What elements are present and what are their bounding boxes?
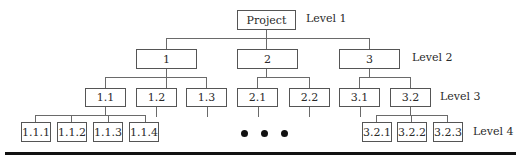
node-label: 1.1.2 bbox=[58, 126, 86, 139]
connector bbox=[309, 77, 310, 88]
node-label: 1.1.4 bbox=[130, 126, 158, 139]
bottom-rule bbox=[5, 152, 516, 155]
connector bbox=[108, 115, 109, 122]
connector bbox=[105, 77, 207, 78]
node-1-1: 1.1 bbox=[85, 88, 126, 107]
node-3: 3 bbox=[339, 49, 400, 69]
level-3-label: Level 3 bbox=[440, 90, 481, 103]
level-4-label: Level 4 bbox=[473, 125, 514, 138]
connector-stub bbox=[156, 107, 157, 117]
node-label: 1 bbox=[163, 53, 170, 66]
node-3-2: 3.2 bbox=[390, 88, 431, 107]
connector bbox=[71, 115, 72, 122]
node-label: 2 bbox=[264, 53, 271, 66]
node-3-2-1: 3.2.1 bbox=[362, 122, 392, 142]
node-label: 3.2.2 bbox=[398, 126, 426, 139]
node-label: 3.2 bbox=[402, 91, 420, 104]
node-1-1-3: 1.1.3 bbox=[93, 122, 123, 142]
node-project: Project bbox=[237, 10, 296, 30]
connector bbox=[410, 77, 411, 88]
connector bbox=[411, 115, 412, 122]
connector bbox=[257, 77, 310, 78]
connector bbox=[359, 77, 360, 88]
node-1-1-4: 1.1.4 bbox=[129, 122, 159, 142]
node-2-2: 2.2 bbox=[289, 88, 330, 107]
node-label: 1.1.3 bbox=[94, 126, 122, 139]
node-label: 1.3 bbox=[198, 91, 216, 104]
connector bbox=[376, 115, 377, 122]
connector bbox=[206, 77, 207, 88]
connector bbox=[166, 38, 370, 39]
connector-stub bbox=[258, 107, 259, 117]
connector bbox=[359, 77, 411, 78]
node-label: Project bbox=[247, 14, 287, 27]
ellipsis-dot bbox=[281, 130, 288, 137]
node-label: 1.1 bbox=[97, 91, 115, 104]
connector bbox=[166, 38, 167, 49]
node-2-1: 2.1 bbox=[237, 88, 278, 107]
connector-stub bbox=[360, 107, 361, 117]
connector bbox=[35, 115, 146, 116]
node-label: 3.2.3 bbox=[434, 126, 462, 139]
node-3-2-2: 3.2.2 bbox=[397, 122, 427, 142]
node-1-3: 1.3 bbox=[186, 88, 227, 107]
node-1-1-1: 1.1.1 bbox=[21, 122, 51, 142]
connector bbox=[266, 69, 267, 77]
ellipsis-dot bbox=[261, 130, 268, 137]
node-label: 1.1.1 bbox=[22, 126, 50, 139]
connector bbox=[410, 107, 411, 115]
node-label: 3.1 bbox=[351, 91, 369, 104]
connector bbox=[376, 115, 448, 116]
level-1-label: Level 1 bbox=[306, 12, 347, 25]
connector bbox=[369, 69, 370, 77]
level-2-label: Level 2 bbox=[412, 51, 453, 64]
connector bbox=[105, 107, 106, 115]
connector bbox=[105, 77, 106, 88]
node-label: 2.1 bbox=[249, 91, 267, 104]
connector bbox=[447, 115, 448, 122]
connector bbox=[369, 38, 370, 49]
node-label: 1.2 bbox=[148, 91, 166, 104]
node-2: 2 bbox=[237, 49, 298, 69]
connector bbox=[35, 115, 36, 122]
connector bbox=[257, 77, 258, 88]
ellipsis-dot bbox=[241, 130, 248, 137]
node-3-2-3: 3.2.3 bbox=[433, 122, 463, 142]
connector-stub bbox=[309, 107, 310, 117]
connector bbox=[266, 30, 267, 49]
node-1: 1 bbox=[136, 49, 197, 69]
connector bbox=[166, 69, 167, 88]
node-label: 3 bbox=[366, 53, 373, 66]
connector-stub bbox=[207, 107, 208, 117]
connector bbox=[145, 115, 146, 122]
node-label: 3.2.1 bbox=[363, 126, 391, 139]
node-label: 2.2 bbox=[301, 91, 319, 104]
node-3-1: 3.1 bbox=[339, 88, 380, 107]
node-1-2: 1.2 bbox=[136, 88, 177, 107]
node-1-1-2: 1.1.2 bbox=[57, 122, 87, 142]
